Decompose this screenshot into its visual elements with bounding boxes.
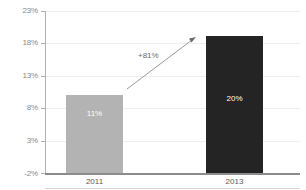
y-tick-8 <box>41 108 45 109</box>
category-band-separator <box>45 188 300 189</box>
bar-2013[interactable]: 20% <box>206 36 263 173</box>
category-label-2011: 2011 <box>66 177 123 186</box>
y-tick-label-18: 18% <box>0 39 38 47</box>
x-axis-baseline <box>45 173 300 175</box>
y-tick-label-23: 23% <box>0 7 38 15</box>
y-tick-label-13: 13% <box>0 72 38 80</box>
bar-value-2011: 11% <box>66 110 123 118</box>
gridline-23 <box>45 11 300 12</box>
y-tick-label-8: 8% <box>0 104 38 112</box>
y-tick-23 <box>41 11 45 12</box>
y-tick-3 <box>41 141 45 142</box>
growth-annotation-label: +81% <box>138 52 159 60</box>
y-tick-label-3: 3% <box>0 137 38 145</box>
bar-chart: 23% 18% 13% 8% 3% -2% 11% 20% 2011 2013 … <box>0 0 306 190</box>
y-tick-label-minus2: -2% <box>0 170 38 178</box>
y-axis-line <box>45 11 46 174</box>
bar-value-2013: 20% <box>206 95 263 103</box>
y-tick-13 <box>41 76 45 77</box>
bar-2011[interactable]: 11% <box>66 95 123 173</box>
y-tick-18 <box>41 43 45 44</box>
category-label-2013: 2013 <box>206 177 263 186</box>
